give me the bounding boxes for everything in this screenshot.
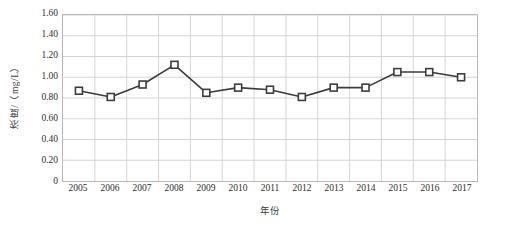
y-axis-tick-label: 0.40 bbox=[41, 135, 58, 145]
data-point-marker bbox=[298, 94, 305, 101]
x-axis-title: 年份 bbox=[62, 203, 478, 217]
y-axis-tick-label: 0 bbox=[53, 177, 58, 187]
x-axis-tick-label: 2014 bbox=[357, 184, 376, 194]
data-point-marker bbox=[203, 89, 210, 96]
x-axis-tick-label: 2010 bbox=[229, 184, 248, 194]
y-axis-tick-label: 0.60 bbox=[41, 114, 58, 124]
x-axis-tick-label: 2011 bbox=[261, 184, 280, 194]
y-axis-tick-label: 1.00 bbox=[41, 72, 58, 82]
y-axis-tick-label: 1.60 bbox=[41, 9, 58, 19]
x-axis-tick-label: 2012 bbox=[293, 184, 312, 194]
y-axis-tick-label: 0.80 bbox=[41, 93, 58, 103]
data-point-marker bbox=[107, 94, 114, 101]
y-axis-title: 浓度/（mg/L） bbox=[4, 0, 26, 190]
data-point-marker bbox=[362, 84, 369, 91]
data-point-marker bbox=[171, 61, 178, 68]
x-axis-tick-label: 2006 bbox=[101, 184, 120, 194]
line-chart: 浓度/（mg/L） 1.601.401.201.000.800.600.400.… bbox=[0, 0, 518, 226]
x-axis-tick-label: 2017 bbox=[453, 184, 472, 194]
data-point-marker bbox=[267, 86, 274, 93]
data-point-marker bbox=[75, 87, 82, 94]
x-axis-tick-label: 2015 bbox=[389, 184, 408, 194]
x-axis-tick-label: 2009 bbox=[197, 184, 216, 194]
x-axis-tick-label: 2007 bbox=[133, 184, 152, 194]
data-point-marker bbox=[330, 84, 337, 91]
y-axis-tick-label: 1.40 bbox=[41, 30, 58, 40]
y-axis-tick-label: 1.20 bbox=[41, 51, 58, 61]
y-axis-tick-label: 0.20 bbox=[41, 156, 58, 166]
data-point-marker bbox=[235, 84, 242, 91]
plot-area bbox=[62, 14, 478, 182]
x-axis-tick-label: 2005 bbox=[69, 184, 88, 194]
y-axis-tick-labels: 1.601.401.201.000.800.600.400.200 bbox=[26, 14, 58, 182]
y-axis-title-label: 浓度/（mg/L） bbox=[8, 61, 22, 129]
data-point-marker bbox=[394, 69, 401, 76]
data-point-marker bbox=[458, 74, 465, 81]
x-axis-tick-label: 2008 bbox=[165, 184, 184, 194]
data-point-marker bbox=[426, 69, 433, 76]
data-point-marker bbox=[139, 81, 146, 88]
x-axis-tick-labels: 2005200620072008200920102011201220132014… bbox=[62, 184, 478, 200]
data-series bbox=[63, 15, 477, 181]
x-axis-tick-label: 2013 bbox=[325, 184, 344, 194]
x-axis-tick-label: 2016 bbox=[421, 184, 440, 194]
